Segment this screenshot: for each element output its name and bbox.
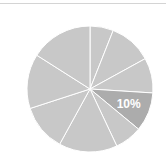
- pie-labels: 10%: [117, 97, 141, 111]
- pie-slices: [27, 26, 153, 152]
- slice-data-label: 10%: [117, 97, 141, 111]
- pie-chart: 10%: [0, 0, 166, 167]
